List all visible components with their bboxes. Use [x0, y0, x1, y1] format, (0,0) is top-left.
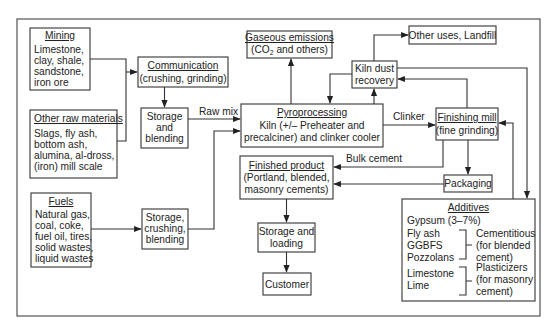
- additives-box: Additives Gypsum (3–7%) Fly ash GGBFS Po…: [402, 199, 535, 301]
- gaseous-title: Gaseous emissions: [245, 32, 334, 43]
- communication-box: Communication (crushing, grinding): [138, 57, 228, 87]
- other-uses-line-1: Other uses, Landfill: [409, 30, 497, 41]
- finished-line-2: masonry cements): [245, 184, 329, 195]
- finished-line-1: (Portland, blended,: [243, 172, 329, 183]
- mining-title: Mining: [45, 30, 75, 41]
- storage-blending-box: Storage and blending: [141, 108, 188, 148]
- arrow-kiln-dust-to-pyro: [330, 74, 352, 103]
- additives-g2-item-1: Limestone: [407, 268, 454, 279]
- other-raw-line-3: alumina, al-dross,: [34, 150, 114, 161]
- additives-gypsum: Gypsum (3–7%): [407, 215, 481, 226]
- fuels-line-1: Natural gas,: [35, 209, 90, 220]
- storage-loading-box: Storage and loading: [258, 223, 315, 252]
- finished-product-box: Finished product (Portland, blended, mas…: [240, 156, 333, 199]
- mining-line-2: clay, shale,: [34, 55, 84, 66]
- raw-mix-label: Raw mix: [199, 106, 238, 117]
- pyroprocessing-box: Pyroprocessing Kiln (+/– Preheater and p…: [241, 104, 383, 147]
- fuels-line-5: liquid wastes: [35, 253, 93, 264]
- fuels-line-2: coal, coke,: [35, 220, 84, 231]
- finished-title: Finished product: [249, 160, 324, 171]
- packaging-line-1: Packaging: [444, 178, 492, 189]
- arrow-kiln-dust-to-other-uses: [374, 35, 408, 61]
- fuels-line-3: fuel oil, tires,: [35, 231, 92, 242]
- additives-g2-desc-1: Plasticizers: [476, 262, 528, 273]
- additives-title: Additives: [448, 202, 489, 213]
- kiln-dust-recovery-box: Kiln dust recovery: [352, 61, 397, 88]
- packaging-box: Packaging: [444, 175, 492, 192]
- fuels-line-4: solid wastes,: [35, 242, 93, 253]
- additives-g1-desc-2: (for blended: [476, 240, 531, 251]
- other-raw-line-2: bottom ash,: [34, 139, 87, 150]
- additives-g2-desc-2: (for masonry: [476, 274, 534, 285]
- storage-crushing-line-1: Storage,: [146, 212, 185, 223]
- mining-line-4: iron ore: [34, 77, 69, 88]
- pyro-title: Pyroprocessing: [277, 107, 348, 118]
- communication-title: Communication: [148, 60, 219, 71]
- other-uses-box: Other uses, Landfill: [409, 26, 497, 44]
- storage-loading-line-1: Storage and: [259, 226, 315, 237]
- customer-line-1: Customer: [265, 279, 310, 290]
- fuels-box: Fuels Natural gas, coal, coke, fuel oil,…: [31, 193, 93, 267]
- clinker-label: Clinker: [393, 111, 425, 122]
- arrow-finishing-to-kiln-dust: [398, 79, 467, 108]
- kiln-dust-line-1: Kiln dust: [355, 63, 394, 74]
- gaseous-emissions-box: Gaseous emissions (CO2 and others): [245, 31, 334, 58]
- other-raw-line-4: (iron) mill scale: [34, 161, 103, 172]
- arrow-fuel-to-pyro: [188, 131, 240, 229]
- additives-g1-item-2: GGBFS: [407, 240, 443, 251]
- communication-line-1: (crushing, grinding): [139, 73, 226, 84]
- finishing-title: Finishing mill: [438, 112, 497, 123]
- storage-blending-line-2: and: [156, 122, 173, 133]
- bulk-cement-label: Bulk cement: [346, 153, 402, 164]
- arrow-additives-to-finishing: [499, 123, 513, 199]
- additives-g2-item-2: Lime: [407, 280, 429, 291]
- additives-g2-desc-3: cement): [476, 286, 513, 297]
- storage-blending-line-1: Storage: [147, 111, 183, 122]
- storage-blending-line-3: blending: [145, 133, 184, 144]
- mining-box: Mining Limestone, clay, shale, sandstone…: [30, 28, 90, 90]
- storage-crushing-line-3: blending: [146, 234, 185, 245]
- mining-line-1: Limestone,: [34, 44, 84, 55]
- other-raw-line-1: Slags, fly ash,: [34, 128, 97, 139]
- pyro-line-1: Kiln (+/– Preheater and: [259, 120, 364, 131]
- mining-line-3: sandstone,: [34, 66, 84, 77]
- storage-crushing-line-2: crushing,: [144, 223, 185, 234]
- customer-box: Customer: [263, 273, 311, 295]
- additives-g1-item-3: Pozzolans: [407, 252, 454, 263]
- additives-g1-item-1: Fly ash: [407, 228, 440, 239]
- storage-crushing-box: Storage, crushing, blending: [142, 209, 188, 249]
- pyro-line-2: precalciner) and clinker cooler: [244, 132, 381, 143]
- fuels-title: Fuels: [49, 196, 74, 207]
- finishing-mill-box: Finishing mill (fine grinding): [436, 108, 498, 140]
- additives-g1-desc-1: Cementitious: [476, 228, 535, 239]
- kiln-dust-line-2: recovery: [355, 75, 395, 86]
- other-raw-materials-box: Other raw materials Slags, fly ash, bott…: [30, 110, 123, 178]
- gaseous-line: (CO2 and others): [251, 44, 328, 56]
- storage-loading-line-2: loading: [270, 238, 303, 249]
- other-raw-title: Other raw materials: [34, 113, 123, 124]
- finishing-line-1: (fine grinding): [436, 125, 498, 136]
- cement-process-flow-diagram: Mining Limestone, clay, shale, sandstone…: [0, 0, 557, 331]
